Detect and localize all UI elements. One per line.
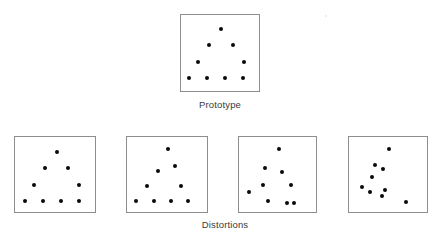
distortion-box-3: [238, 136, 317, 213]
distortion-2-dot: [173, 164, 177, 168]
distortion-2-dot: [134, 199, 138, 203]
prototype-box: [180, 14, 260, 92]
distortion-4-dot: [360, 185, 364, 189]
distortion-4-dot: [387, 147, 391, 151]
distortion-2-dot: [186, 199, 190, 203]
distortion-4-dot: [373, 163, 377, 167]
prototype-dot: [223, 76, 227, 80]
distortion-1-dot: [77, 199, 81, 203]
distortion-4-dot: [383, 188, 387, 192]
distortion-3-dot: [292, 201, 296, 205]
distortion-3-dot: [277, 147, 281, 151]
distortion-2-dot: [152, 199, 156, 203]
distortion-2-dot: [169, 199, 173, 203]
distortion-3-dot: [266, 199, 270, 203]
dot-pattern-figure: Prototype Distortions: [0, 0, 439, 238]
distortion-1-dot: [77, 183, 81, 187]
distortion-3-dot: [261, 183, 265, 187]
distortion-box-4: [348, 136, 428, 213]
prototype-dot: [231, 43, 235, 47]
distortion-3-dot: [263, 166, 267, 170]
distortion-3-dot: [289, 183, 293, 187]
prototype-dot: [187, 76, 191, 80]
distortion-4-dot: [380, 194, 384, 198]
distortion-1-dot: [41, 199, 45, 203]
distortion-4-dot: [370, 175, 374, 179]
distortion-2-dot: [166, 147, 170, 151]
distortion-3-dot: [247, 190, 251, 194]
distortion-4-dot: [368, 190, 372, 194]
distortion-1-dot: [23, 199, 27, 203]
distortion-1-dot: [66, 166, 70, 170]
prototype-dot: [241, 76, 245, 80]
prototype-dot: [205, 76, 209, 80]
distortion-1-dot: [32, 183, 36, 187]
distortion-2-dot: [145, 184, 149, 188]
distortion-4-dot: [404, 200, 408, 204]
distortion-3-dot: [285, 201, 289, 205]
distortion-1-dot: [59, 199, 63, 203]
prototype-caption: Prototype: [180, 99, 260, 111]
distortion-1-dot: [43, 166, 47, 170]
prototype-dot: [207, 43, 211, 47]
distortion-box-1: [14, 136, 96, 213]
distortion-4-dot: [381, 167, 385, 171]
scan-artifact-speck: [325, 15, 327, 17]
prototype-dot: [196, 60, 200, 64]
distortion-3-dot: [280, 170, 284, 174]
distortions-caption: Distortions: [170, 219, 280, 231]
distortion-box-2: [126, 136, 208, 213]
distortion-1-dot: [55, 150, 59, 154]
prototype-dot: [219, 27, 223, 31]
prototype-dot: [242, 60, 246, 64]
distortion-2-dot: [179, 184, 183, 188]
distortion-2-dot: [156, 169, 160, 173]
